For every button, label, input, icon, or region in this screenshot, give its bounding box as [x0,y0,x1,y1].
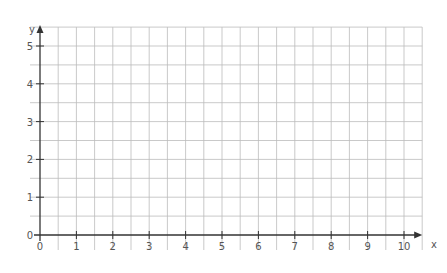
y-axis-arrow-icon [37,25,44,33]
y-axis-label: y [29,24,35,35]
axes [34,25,422,241]
x-tick-label: 10 [398,241,411,252]
grid-lines [30,27,422,250]
x-tick-label: 6 [255,241,261,252]
y-tick-label: 0 [27,230,33,241]
tick-labels: 012345678910012345 [27,41,411,252]
y-tick-label: 3 [27,117,33,128]
x-axis-label: x [431,239,437,250]
x-tick-label: 9 [364,241,370,252]
x-tick-label: 4 [182,241,188,252]
x-tick-label: 0 [37,241,43,252]
x-tick-label: 7 [292,241,298,252]
y-tick-label: 5 [27,41,33,52]
y-tick-label: 4 [27,79,33,90]
x-axis-arrow-icon [414,232,422,239]
x-tick-label: 3 [146,241,152,252]
x-tick-label: 2 [110,241,116,252]
y-tick-label: 2 [27,154,33,165]
x-tick-label: 1 [73,241,79,252]
x-tick-label: 5 [219,241,225,252]
y-tick-label: 1 [27,192,33,203]
x-tick-label: 8 [328,241,334,252]
coordinate-grid: 012345678910012345 x y [0,0,447,273]
